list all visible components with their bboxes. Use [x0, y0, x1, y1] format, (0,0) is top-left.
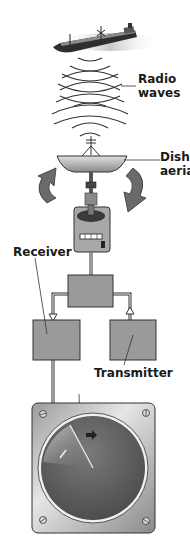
transmitter-label: Transmitter — [94, 366, 173, 380]
antenna-icon — [82, 136, 100, 156]
radio-waves-label-line2: waves — [138, 86, 180, 100]
radio-waves-icon — [52, 58, 128, 136]
receiver-box — [33, 320, 80, 360]
radio-waves-label: Radio waves — [138, 72, 180, 100]
radar-display-icon — [32, 403, 155, 533]
shaft-icon — [85, 172, 97, 205]
arrow-up-icon — [126, 307, 134, 314]
dish-aerial-icon — [57, 156, 127, 172]
motor-unit-icon — [74, 205, 110, 252]
ship-icon — [53, 23, 160, 52]
dish-aerial-label-line1: Dish — [160, 150, 190, 164]
radio-waves-label-line1: Radio — [138, 72, 180, 86]
receiver-label: Receiver — [13, 245, 72, 259]
dish-aerial-label-line2: aerial — [160, 164, 190, 178]
duplexer-box — [68, 275, 113, 307]
dish-aerial-label: Dish aerial — [160, 150, 190, 178]
transmitter-box — [110, 320, 156, 360]
